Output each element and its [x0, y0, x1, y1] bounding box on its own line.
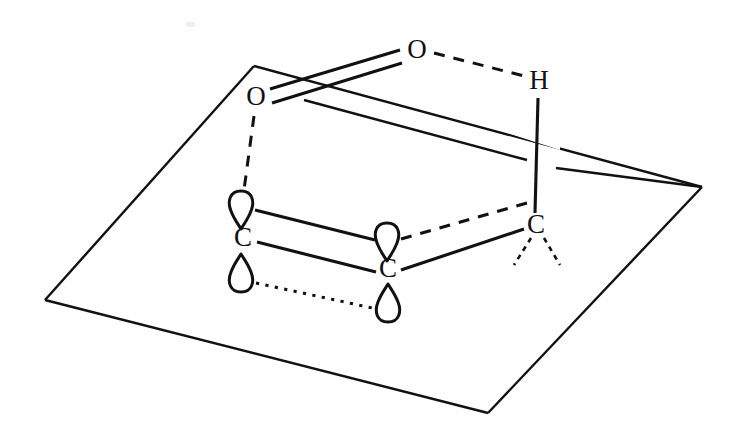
atom-oxygen-top: O — [407, 34, 427, 64]
atom-oxygen-left: O — [246, 81, 266, 111]
plane-edge-bottom-right — [488, 187, 702, 413]
overlap-upper-lobes — [255, 210, 375, 240]
plane-edge-bottom-left — [45, 300, 488, 413]
bond-carbon-right-substituent-left — [514, 238, 531, 265]
orbital-overlap-diagram: O O H C C C — [0, 0, 740, 439]
atom-hydrogen-right: H — [529, 65, 549, 95]
atom-carbon-right: C — [527, 209, 545, 239]
orbital-lobe-carbon-left-lower — [229, 254, 252, 292]
figure-root: O O H C C C — [0, 0, 740, 439]
plane-edge-top-left — [45, 66, 254, 300]
overlap-oxygen-left-carbon-left-orbital — [244, 116, 254, 190]
atom-carbon-center: C — [379, 253, 397, 283]
plane-edge-top-right — [254, 66, 702, 187]
bond-carbon-center-carbon-right — [401, 229, 524, 270]
overlap-lower-lobes — [256, 283, 377, 309]
orbital-lobe-carbon-center-lower — [376, 284, 399, 322]
atom-carbon-left: C — [234, 222, 252, 252]
bond-carbon-right-substituent-right — [544, 238, 560, 265]
hydrogen-bond-oxygen-top-hydrogen — [434, 53, 524, 76]
bond-carbon-left-carbon-center — [257, 242, 376, 272]
plane-edge-segment-right — [556, 168, 702, 187]
